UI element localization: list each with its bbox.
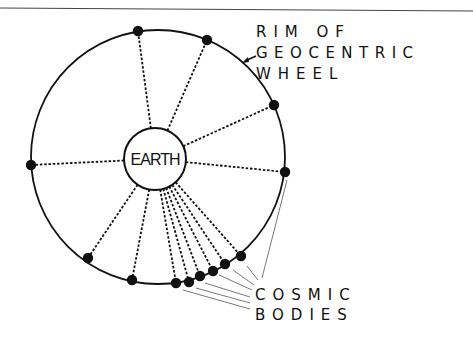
spoke xyxy=(186,162,285,172)
rim-pointer-arrow xyxy=(242,56,256,63)
rim-label-line-1: RIM OF xyxy=(256,23,351,41)
cosmic-body-dot xyxy=(280,167,290,177)
cosmic-bodies-label-line-1: COSMIC xyxy=(255,286,357,304)
cosmic-body-dot xyxy=(171,278,181,288)
geocentric-wheel-diagram: EARTH RIM OF GEOCENTRIC WHEEL COSMIC BOD… xyxy=(0,0,473,342)
spoke xyxy=(132,190,149,281)
cosmic-body-dot xyxy=(83,253,93,263)
cosmic-body-dot xyxy=(236,251,246,261)
cosmic-body-dot xyxy=(184,277,194,287)
rim-label-line-3: WHEEL xyxy=(256,65,344,83)
cosmic-body-dot xyxy=(195,271,205,281)
cosmic-body-dot xyxy=(127,275,137,285)
cosmic-body-dot xyxy=(202,35,212,45)
spoke xyxy=(160,190,176,283)
top-rule xyxy=(0,8,473,11)
cosmic-bodies-label-line-2: BODIES xyxy=(255,306,354,324)
cosmic-body-dot xyxy=(269,100,279,110)
cosmic-body-dot xyxy=(133,26,143,36)
rim-label-line-2: GEOCENTRIC xyxy=(256,44,420,62)
cosmic-body-dot xyxy=(208,266,218,276)
spoke xyxy=(31,161,124,166)
spoke xyxy=(88,185,138,258)
earth-label: EARTH xyxy=(131,151,180,168)
spoke xyxy=(183,105,274,146)
cosmic-body-dot xyxy=(26,160,36,170)
spoke xyxy=(138,31,151,128)
cosmic-body-dot xyxy=(220,259,230,269)
spoke xyxy=(167,40,207,131)
